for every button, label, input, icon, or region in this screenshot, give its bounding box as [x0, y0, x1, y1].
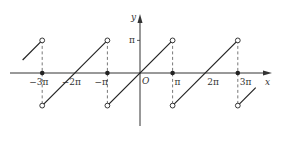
open-endpoint — [105, 103, 110, 108]
filled-point — [105, 71, 110, 76]
x-tick-label: π — [175, 77, 181, 87]
open-endpoint — [235, 38, 240, 43]
y-axis-label: y — [130, 12, 137, 22]
origin-label: O — [142, 76, 150, 86]
open-endpoint — [40, 103, 45, 108]
open-endpoint — [40, 38, 45, 43]
open-endpoint — [235, 103, 240, 108]
x-tick-label: 2π — [207, 77, 219, 87]
x-axis-label: x — [265, 77, 270, 87]
x-tick-label: 3π — [240, 77, 252, 87]
filled-point — [40, 71, 45, 76]
x-tick-label: −3π — [29, 77, 48, 87]
open-endpoint — [170, 38, 175, 43]
y-axis-arrow-icon — [138, 14, 143, 23]
filled-point — [236, 71, 241, 76]
open-endpoint — [170, 103, 175, 108]
function-segment — [238, 88, 256, 106]
open-endpoint — [105, 38, 110, 43]
axes — [10, 14, 272, 126]
sawtooth-chart: −3π−2π−ππ2π3ππ x y O — [0, 0, 287, 141]
filled-point — [170, 71, 175, 76]
x-tick-label: −2π — [62, 77, 81, 87]
x-tick-label: −π — [94, 77, 108, 87]
y-tick-label: π — [129, 35, 135, 45]
x-axis-arrow-icon — [263, 71, 272, 76]
function-segment — [23, 40, 43, 60]
